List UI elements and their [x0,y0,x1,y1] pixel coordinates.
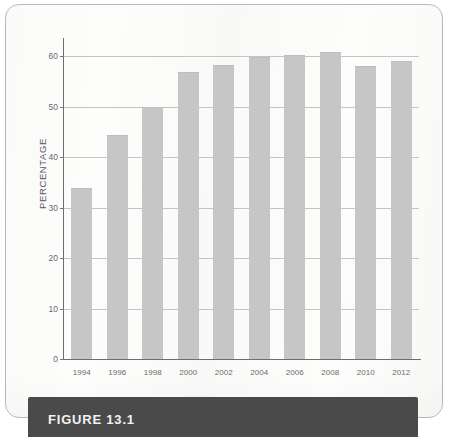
x-axis-tick-label: 2012 [392,368,410,377]
x-axis-tick-label: 1996 [108,368,126,377]
x-axis-tick-label: 2004 [250,368,268,377]
y-axis-tick-label: 40 [49,152,58,162]
gridline [64,359,419,360]
x-axis-tick-label: 2008 [321,368,339,377]
x-axis-tick-label: 1998 [144,368,162,377]
gridline [64,56,419,57]
y-axis-tick-label: 50 [49,102,58,112]
y-axis-tick-mark [60,107,64,108]
bar-chart: PERCENTAGE 0102030405060 199419961998200… [0,0,450,390]
y-axis-tick-label: 20 [49,253,58,263]
bar [142,107,163,359]
bar [320,52,341,359]
figure-caption-label: FIGURE 13.1 [48,412,135,427]
x-axis-tick-label: 1994 [73,368,91,377]
y-axis-tick-label: 10 [49,304,58,314]
y-axis-tick-mark [60,359,64,360]
x-axis-tick-label: 2010 [357,368,375,377]
plot-area: 0102030405060 19941996199820002002200420… [64,46,419,359]
figure-caption-bar: FIGURE 13.1 [28,397,418,437]
y-axis-tick-mark [60,157,64,158]
x-axis-tick-label: 2006 [286,368,304,377]
y-axis-tick-mark [60,56,64,57]
bar [178,72,199,359]
bar [284,55,305,359]
y-axis-tick-label: 30 [49,203,58,213]
bar [71,188,92,359]
y-axis-tick-mark [60,208,64,209]
y-axis-title: PERCENTAGE [37,114,48,234]
bar [249,57,270,359]
bar [355,66,376,359]
bar [107,135,128,359]
bar [213,65,234,359]
x-axis-tick-label: 2002 [215,368,233,377]
y-axis-tick-label: 0 [53,354,58,364]
y-axis-tick-mark [60,258,64,259]
y-axis-tick-label: 60 [49,51,58,61]
y-axis-tick-mark [60,309,64,310]
x-axis-tick-label: 2000 [179,368,197,377]
y-axis-line [63,38,64,359]
bar [391,61,412,359]
